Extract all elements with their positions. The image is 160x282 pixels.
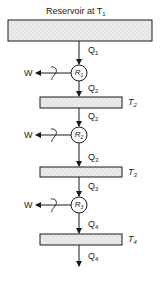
engine-r3-label: R3: [71, 200, 87, 210]
work-label-r1: W: [24, 69, 33, 78]
label-t3: T3: [128, 168, 137, 180]
heat-label-q2-out: Q2: [88, 84, 98, 96]
engine-r1-label: R1: [71, 68, 87, 78]
work-output-r3: [36, 199, 71, 212]
heat-label-q3-out: Q3: [88, 153, 98, 165]
work-label-r3: W: [24, 201, 33, 210]
work-label-r2: W: [24, 131, 33, 140]
label-t4: T4: [128, 235, 137, 247]
label-t2: T2: [128, 98, 137, 110]
heat-label-q4-out: Q4: [88, 220, 98, 232]
work-output-r2: [36, 129, 71, 142]
engine-r2-label: R2: [71, 130, 87, 140]
reservoir-t2: [40, 97, 122, 108]
reservoir-t4: [40, 234, 122, 245]
reservoir-t1-title: Reservoir at T1: [46, 7, 106, 19]
work-output-r1: [36, 67, 71, 80]
reservoir-t1: [8, 20, 152, 41]
heat-label-q4-exit: Q4: [88, 252, 98, 264]
reservoir-t3: [40, 167, 122, 177]
heat-label-q2-in: Q2: [88, 112, 98, 124]
heat-label-q3-in: Q3: [88, 182, 98, 194]
heat-label-q1: Q1: [88, 46, 98, 58]
